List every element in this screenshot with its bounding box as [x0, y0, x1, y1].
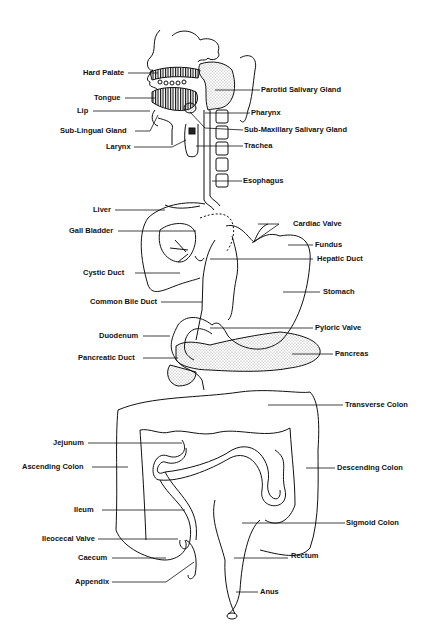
label-cystic-duct: Cystic Duct [83, 268, 124, 277]
parotid-gland-shape [199, 62, 235, 110]
label-hard-palate: Hard Palate [83, 68, 124, 77]
label-ascending-colon: Ascending Colon [22, 462, 84, 471]
label-common-bile-duct: Common Bile Duct [90, 297, 157, 306]
teeth [158, 80, 186, 85]
label-sub-maxillary-gland: Sub-Maxillary Salivary Gland [244, 125, 347, 134]
label-trachea: Trachea [244, 141, 272, 150]
label-fundus: Fundus [315, 240, 342, 249]
label-jejunum: Jejunum [53, 438, 84, 447]
label-transverse-colon: Transverse Colon [345, 400, 408, 409]
label-appendix: Appendix [75, 577, 109, 586]
label-stomach: Stomach [323, 287, 355, 296]
label-liver: Liver [93, 205, 111, 214]
spine [216, 110, 228, 187]
label-duodenum: Duodenum [99, 331, 138, 340]
sub-maxillary-shape [184, 103, 196, 113]
small-intestine [153, 440, 286, 506]
label-esophagus: Esophagus [243, 176, 283, 185]
label-descending-colon: Descending Colon [337, 463, 403, 472]
digestive-system-diagram: Hard Palate Parotid Salivary Gland Tongu… [0, 0, 433, 634]
label-larynx: Larynx [106, 142, 131, 151]
label-caecum: Caecum [78, 553, 107, 562]
esophagus-tube [204, 110, 214, 210]
liver-shape [141, 203, 205, 292]
label-ileum: Ileum [74, 505, 94, 514]
label-sigmoid-colon: Sigmoid Colon [346, 518, 399, 527]
label-pancreas: Pancreas [335, 349, 368, 358]
stomach-shape [212, 225, 310, 349]
label-gall-bladder: Gall Bladder [69, 226, 113, 235]
label-pancreatic-duct: Pancreatic Duct [78, 353, 135, 362]
hard-palate-shape [150, 67, 200, 80]
label-sub-lingual-gland: Sub-Lingual Gland [60, 126, 127, 135]
label-pharynx: Pharynx [251, 108, 281, 117]
label-ileocecal-valve: Ileocecal Valve [42, 534, 95, 543]
anus-shape [227, 613, 237, 619]
label-lip: Lip [77, 106, 88, 115]
label-anus: Anus [260, 587, 279, 596]
label-tongue: Tongue [94, 93, 121, 102]
large-intestine-outer [118, 391, 319, 556]
label-pyloric-valve: Pyloric Valve [315, 323, 361, 332]
label-parotid-gland: Parotid Salivary Gland [261, 85, 341, 94]
pancreas-shape [176, 332, 320, 371]
label-hepatic-duct: Hepatic Duct [317, 254, 363, 263]
head-outline [147, 30, 255, 145]
label-cardiac-valve: Cardiac Valve [293, 219, 342, 228]
label-rectum: Rectum [291, 551, 319, 560]
